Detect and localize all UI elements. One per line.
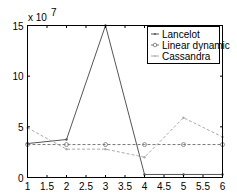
data-point (182, 117, 184, 119)
line-chart: x 107 11.522.533.544.555.56051015 Lancel… (0, 0, 237, 196)
y-tick-label: 5 (18, 122, 24, 133)
x-tick-label: 1 (25, 181, 31, 192)
x-tick-label: 3 (103, 181, 109, 192)
x-tick-label: 2.5 (79, 181, 93, 192)
x-tick-label: 6 (220, 181, 226, 192)
legend-marker-icon (154, 33, 156, 35)
exponent-power: 7 (51, 7, 57, 18)
legend-item: Linear dynamic (151, 40, 230, 51)
data-point (65, 148, 67, 150)
data-point (104, 148, 106, 150)
legend: LancelotLinear dynamicCassandra (148, 27, 230, 64)
legend-marker-icon (154, 55, 156, 57)
legend-label: Linear dynamic (162, 40, 230, 51)
y-tick-label: 10 (12, 71, 24, 82)
y-tick-label: 0 (18, 173, 24, 184)
series-cassandra (26, 117, 223, 159)
data-point (65, 138, 67, 140)
x-tick-label: 3.5 (118, 181, 132, 192)
data-point (143, 156, 145, 158)
y-tick-label: 15 (12, 21, 24, 32)
y-exponent-label: x 107 (28, 7, 57, 23)
x-tick-label: 4.5 (157, 181, 171, 192)
legend-label: Cassandra (162, 51, 211, 62)
x-tick-label: 2 (64, 181, 70, 192)
x-tick-label: 4 (142, 181, 148, 192)
x-tick-label: 1.5 (40, 181, 54, 192)
exponent-text: x 10 (28, 12, 47, 23)
x-tick-label: 5 (181, 181, 187, 192)
x-tick-label: 5.5 (196, 181, 210, 192)
legend-label: Lancelot (162, 29, 200, 40)
